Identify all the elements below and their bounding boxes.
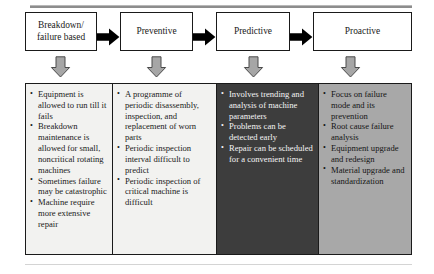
arrow-down-icon — [146, 56, 167, 78]
stage-label-breakdown: Breakdown/failure based — [35, 20, 87, 42]
arrow-right-icon — [97, 28, 120, 46]
stage-label-preventive: Preventive — [134, 26, 178, 37]
list-item: Focus on failure mode and its prevention — [323, 89, 407, 121]
detail-column-preventive: A programme of periodic disassembly, ins… — [112, 84, 216, 254]
arrow-right-icon — [193, 28, 216, 46]
stage-label-predictive: Predictive — [232, 26, 274, 37]
list-item: Equipment upgrade and redesign — [323, 143, 407, 165]
list-item: Involves trending and analysis of machin… — [221, 89, 314, 121]
list-item: Repair can be scheduled for a convenient… — [221, 143, 314, 165]
arrow-down-icon — [340, 56, 361, 78]
list-item: Periodic inspection interval difficult t… — [117, 143, 212, 175]
arrow-down-icon — [50, 56, 71, 78]
arrow-right-icon — [290, 28, 313, 46]
list-item: Root cause failure analysis — [323, 121, 407, 143]
detail-panel: Equipment is allowed to run till it fail… — [25, 83, 412, 255]
detail-list: Focus on failure mode and its prevention… — [323, 89, 407, 186]
stage-box-breakdown: Breakdown/failure based — [25, 12, 97, 51]
top-divider-rule — [30, 5, 412, 8]
list-item: Material upgrade and standardization — [323, 165, 407, 187]
detail-column-predictive: Involves trending and analysis of machin… — [216, 84, 318, 254]
stage-row: Breakdown/failure based Preventive Predi… — [25, 12, 412, 51]
detail-list: Involves trending and analysis of machin… — [221, 89, 314, 165]
stage-box-preventive: Preventive — [120, 12, 193, 51]
maintenance-strategy-diagram: Breakdown/failure based Preventive Predi… — [0, 0, 434, 274]
detail-list: Equipment is allowed to run till it fail… — [30, 89, 108, 230]
list-item: Breakdown maintenance is allowed for sma… — [30, 121, 108, 175]
list-item: Problems can be detected early — [221, 121, 314, 143]
list-item: Machine require more extensive repair — [30, 197, 108, 229]
arrow-down-icon — [243, 56, 264, 78]
detail-list: A programme of periodic disassembly, ins… — [117, 89, 212, 208]
list-item: Sometimes failure may be catastrophic — [30, 176, 108, 198]
list-item: Equipment is allowed to run till it fail… — [30, 89, 108, 121]
list-item: A programme of periodic disassembly, ins… — [117, 89, 212, 143]
stage-box-predictive: Predictive — [216, 12, 290, 51]
list-item: Periodic inspection of critical machine … — [117, 176, 212, 208]
stage-label-proactive: Proactive — [343, 26, 382, 37]
stage-box-proactive: Proactive — [313, 12, 412, 51]
detail-column-breakdown: Equipment is allowed to run till it fail… — [26, 84, 112, 254]
bottom-divider-rule — [25, 264, 412, 265]
detail-column-proactive: Focus on failure mode and its prevention… — [318, 84, 411, 254]
